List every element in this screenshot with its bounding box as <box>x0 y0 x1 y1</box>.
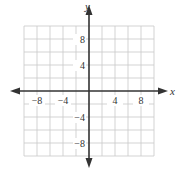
coordinate-plane: −8−44884−4−8 x y <box>0 0 183 169</box>
x-axis-label: x <box>169 85 175 97</box>
y-tick-label: 4 <box>80 60 85 71</box>
axes <box>10 5 168 168</box>
y-tick-label: −8 <box>74 138 85 149</box>
x-axis-left-arrow-icon <box>10 88 20 95</box>
y-tick-label: −4 <box>74 112 85 123</box>
y-tick-label: 8 <box>80 34 85 45</box>
x-tick-label: −4 <box>58 95 69 106</box>
y-axis-down-arrow-icon <box>86 158 93 168</box>
x-tick-label: 4 <box>113 95 118 106</box>
y-axis-label: y <box>84 0 90 12</box>
x-axis-right-arrow-icon <box>158 88 168 95</box>
x-tick-label: 8 <box>139 95 144 106</box>
x-tick-label: −8 <box>32 95 43 106</box>
